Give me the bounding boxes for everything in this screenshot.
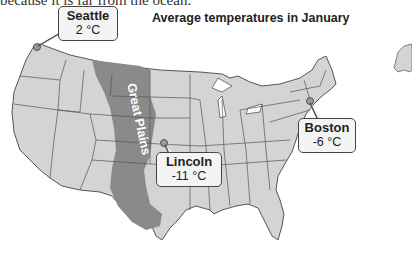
city-name: Boston	[304, 120, 350, 135]
city-name: Lincoln	[162, 154, 216, 169]
city-temp: -6 °C	[304, 135, 350, 150]
city-name: Seattle	[64, 8, 112, 23]
callout-lincoln: Lincoln -11 °C	[156, 152, 222, 187]
us-landmass	[12, 44, 336, 240]
callout-boston: Boston -6 °C	[298, 118, 356, 153]
lincoln-marker	[161, 140, 168, 147]
city-temp: 2 °C	[64, 23, 112, 38]
callout-seattle: Seattle 2 °C	[58, 6, 118, 41]
city-temp: -11 °C	[162, 169, 216, 184]
ireland-fragment	[394, 44, 412, 72]
